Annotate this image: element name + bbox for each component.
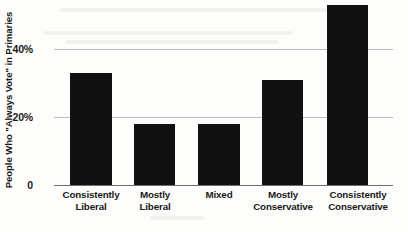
x-axis-baseline	[54, 185, 393, 186]
bar-mostly-conservative	[262, 80, 303, 185]
scan-artifact	[150, 216, 204, 220]
y-tick-label-0: 0	[0, 180, 33, 191]
bar-mixed	[198, 124, 240, 185]
bar-mostly-liberal	[134, 124, 175, 185]
bar-chart-figure: People Who "Always Vote" in Primaries 40…	[0, 0, 408, 232]
plot-area: 40% 20% 0	[54, 4, 393, 185]
x-tick-label-consistently-conservative: Consistently Conservative	[310, 189, 406, 212]
y-tick-label-40: 40%	[0, 44, 33, 55]
y-axis-title: People Who "Always Vote" in Primaries	[2, 6, 16, 194]
bar-consistently-conservative	[327, 5, 368, 185]
bar-consistently-liberal	[70, 73, 112, 185]
y-tick-label-20: 20%	[0, 112, 33, 123]
